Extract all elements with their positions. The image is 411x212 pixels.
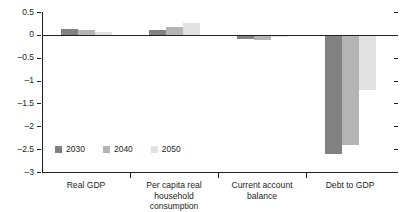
y-tick-label: –2.5: [0, 145, 34, 154]
y-tick-mark-right: [394, 35, 398, 36]
y-tick-mark: [37, 103, 41, 104]
y-tick-mark: [37, 172, 41, 173]
y-tick-mark-right: [394, 81, 398, 82]
bar-chart: 0.50–0.5–1–1.5–2–2.5–3 Real GDPPer capit…: [0, 0, 411, 212]
y-tick-mark-right: [394, 12, 398, 13]
category-label-line: Debt to GDP: [306, 180, 394, 191]
bar: [359, 35, 376, 90]
y-tick-label: –2: [0, 122, 34, 131]
legend-item[interactable]: 2050: [151, 145, 181, 154]
legend-label: 2030: [66, 145, 85, 154]
chart-legend: 203020402050: [55, 145, 181, 154]
category-label-line: Real GDP: [42, 180, 130, 191]
category-label: Per capita realhousehold consumption: [130, 180, 218, 212]
legend-swatch-icon: [151, 146, 158, 153]
y-tick-mark: [37, 58, 41, 59]
y-tick-mark: [37, 81, 41, 82]
y-tick-label: –0.5: [0, 53, 34, 62]
y-tick-mark-right: [394, 172, 398, 173]
y-tick-mark: [37, 12, 41, 13]
category-label-line: Per capita real: [130, 180, 218, 191]
y-tick-mark: [37, 35, 41, 36]
bar: [325, 35, 342, 154]
y-tick-mark: [37, 149, 41, 150]
bar: [183, 23, 200, 34]
y-tick-mark-right: [394, 103, 398, 104]
legend-item[interactable]: 2030: [55, 145, 85, 154]
y-tick-mark-right: [394, 149, 398, 150]
y-tick-label: 0: [0, 30, 34, 39]
category-labels: Real GDPPer capita realhousehold consump…: [42, 176, 394, 210]
y-tick-mark: [37, 126, 41, 127]
category-label-line: Current account: [218, 180, 306, 191]
bar: [166, 27, 183, 35]
legend-label: 2050: [162, 145, 181, 154]
bar: [342, 35, 359, 146]
category-label: Debt to GDP: [306, 180, 394, 191]
category-label-line: household consumption: [130, 191, 218, 212]
y-tick-mark-right: [394, 58, 398, 59]
y-tick-label: –3: [0, 168, 34, 177]
y-axis-line: [42, 12, 43, 173]
legend-swatch-icon: [55, 146, 62, 153]
y-tick-label: 0.5: [0, 8, 34, 17]
y-tick-mark-right: [394, 126, 398, 127]
legend-label: 2040: [114, 145, 133, 154]
category-label: Current accountbalance: [218, 180, 306, 201]
category-label-line: balance: [218, 191, 306, 202]
zero-baseline: [42, 35, 394, 36]
y-tick-label: –1: [0, 76, 34, 85]
y-tick-label: –1.5: [0, 99, 34, 108]
legend-swatch-icon: [103, 146, 110, 153]
legend-item[interactable]: 2040: [103, 145, 133, 154]
category-label: Real GDP: [42, 180, 130, 191]
